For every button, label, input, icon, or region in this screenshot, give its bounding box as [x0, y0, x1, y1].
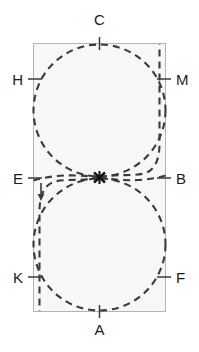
label-point-A: A	[94, 322, 104, 337]
label-point-E: E	[13, 171, 23, 186]
geometry-diagram: C H M E B K F A	[0, 0, 199, 352]
diagram-canvas	[0, 0, 199, 352]
label-point-C: C	[94, 12, 105, 27]
label-point-K: K	[13, 270, 23, 285]
label-point-B: B	[176, 171, 186, 186]
label-point-F: F	[176, 270, 185, 285]
label-point-M: M	[176, 72, 189, 87]
label-point-H: H	[12, 72, 23, 87]
